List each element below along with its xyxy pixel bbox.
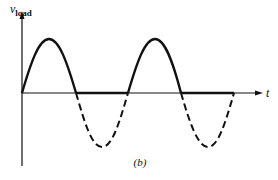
rectified-waveform-diagram: vload t (b) <box>0 0 278 180</box>
x-axis-label: t <box>266 86 270 100</box>
positive-half-cycle-2 <box>128 39 181 93</box>
negative-half-cycle-dashed-1 <box>76 93 128 147</box>
y-axis-label: vload <box>10 2 32 18</box>
figure-caption: (b) <box>134 156 147 169</box>
x-axis-arrow-icon <box>255 91 263 96</box>
positive-half-cycle-1 <box>22 39 76 93</box>
negative-half-cycle-dashed-2 <box>181 93 234 147</box>
